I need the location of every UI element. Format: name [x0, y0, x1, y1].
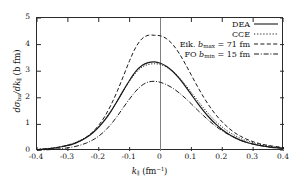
legend-label-fo: FO bmin = 15 fm: [184, 50, 250, 59]
legend-fo-subscript: min: [204, 53, 215, 59]
legend-label-dea: DEA: [232, 20, 250, 29]
legend-sample-solid: [253, 20, 279, 28]
x-tick-label: 0.2: [206, 152, 236, 161]
x-tick-label: 0.1: [175, 152, 205, 161]
legend-sample-dotted: [253, 30, 279, 38]
x-tick-label: -0.3: [52, 152, 82, 161]
x-tick-label: 0: [145, 152, 175, 161]
legend-sample-dashdot: [253, 50, 279, 58]
legend-item-eik: Eik. bmax = 71 fm: [160, 39, 279, 49]
legend-eik-value: 71 fm: [227, 40, 250, 49]
legend-sample-dashed: [253, 40, 279, 48]
legend-eik-subscript: max: [203, 43, 215, 49]
legend-eik-prefix: Eik.: [180, 40, 196, 49]
x-tick-label: -0.1: [114, 152, 144, 161]
x-tick-label: -0.2: [83, 152, 113, 161]
legend-label-cce: CCE: [232, 30, 250, 39]
x-axis-label: k∥ (fm−1): [0, 166, 299, 176]
legend: DEA CCE Eik. bmax = 71 fm FO bmin = 15 f…: [160, 18, 281, 60]
legend-item-fo: FO bmin = 15 fm: [160, 49, 279, 59]
figure: -0.4-0.3-0.2-0.100.10.20.30.4 012345 k∥ …: [0, 0, 299, 188]
legend-label-eik: Eik. bmax = 71 fm: [180, 40, 250, 49]
legend-item-dea: DEA: [160, 19, 279, 29]
legend-fo-prefix: FO: [184, 50, 196, 59]
legend-item-cce: CCE: [160, 29, 279, 39]
x-tick-label: 0.4: [268, 152, 298, 161]
y-axis-label: dσbu/dk∥ (b fm): [12, 11, 22, 151]
legend-fo-value: 15 fm: [227, 50, 250, 59]
x-tick-label: 0.3: [237, 152, 267, 161]
